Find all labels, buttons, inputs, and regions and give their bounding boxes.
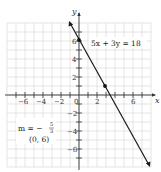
point-0-6	[77, 38, 81, 42]
slope-numerator: 5	[50, 121, 53, 127]
y-axis-label: y	[71, 7, 77, 16]
x-tick-label: −2	[54, 98, 64, 106]
y-axis-arrow-icon	[77, 12, 80, 16]
x-tick-label: 0	[74, 98, 78, 106]
x-tick-label: −6	[18, 98, 29, 106]
x-axis-label: x	[155, 96, 160, 105]
point-label: (0, 6)	[29, 135, 49, 144]
coordinate-graph: x y −6 −4 −2 0 2 6 6 4 2 −2 −4 −6 5x + 3…	[0, 0, 161, 172]
x-tick-label: 6	[131, 98, 136, 106]
y-tick-label: −4	[67, 128, 78, 136]
y-tick-label: −6	[67, 146, 78, 154]
y-tick-label: 6	[72, 38, 77, 46]
x-tick-label: 2	[95, 98, 99, 106]
y-tick-label: −2	[67, 110, 77, 118]
point-3-1	[103, 84, 107, 88]
y-tick-label: 4	[72, 56, 77, 64]
slope-denominator: 3	[50, 128, 53, 134]
slope-label: m = −	[18, 124, 42, 133]
x-tick-label: −4	[36, 98, 47, 106]
slope-prefix: m = −	[18, 124, 42, 133]
y-tick-label: 2	[72, 74, 76, 82]
equation-label: 5x + 3y = 18	[91, 39, 141, 48]
line-arrow-bottom-icon	[146, 162, 151, 167]
